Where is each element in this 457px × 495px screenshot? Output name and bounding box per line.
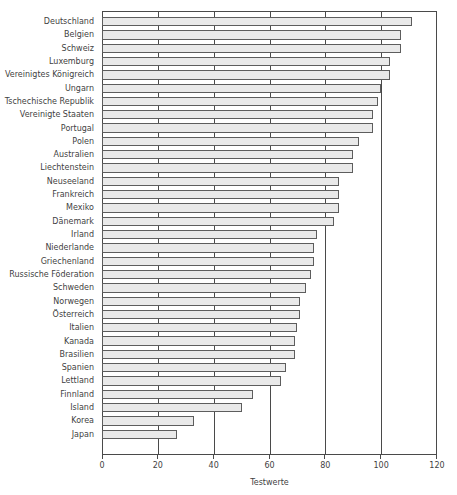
bar-row <box>102 321 437 334</box>
bar-row <box>102 201 437 214</box>
bar-row <box>102 414 437 427</box>
bar-row <box>102 215 437 228</box>
bar-row <box>102 348 437 361</box>
x-tick-mark-80 <box>324 455 325 459</box>
bar <box>102 84 381 93</box>
y-axis-category-labels: DeutschlandBelgienSchweizLuxemburgVerein… <box>0 11 98 455</box>
x-tick-label-80: 80 <box>320 461 330 470</box>
y-axis-label: Mexiko <box>66 201 94 214</box>
bar <box>102 283 306 292</box>
y-axis-label: Deutschland <box>44 15 94 28</box>
bar-row <box>102 108 437 121</box>
bar <box>102 17 412 26</box>
bar <box>102 390 253 399</box>
bar <box>102 243 314 252</box>
y-axis-label: Griechenland <box>41 255 94 268</box>
bar-row <box>102 28 437 41</box>
bar-chart: · · · · DeutschlandBelgienSchweizLuxembu… <box>0 0 457 495</box>
bar-row <box>102 148 437 161</box>
y-axis-label: Australien <box>54 148 94 161</box>
y-axis-label: Kanada <box>64 335 94 348</box>
y-axis-label: Schweden <box>53 281 94 294</box>
bar <box>102 110 373 119</box>
bar <box>102 297 300 306</box>
x-tick-mark-40 <box>213 455 214 459</box>
x-tick-label-120: 120 <box>429 461 444 470</box>
bar-row <box>102 335 437 348</box>
bar <box>102 310 300 319</box>
y-axis-label: Island <box>70 401 94 414</box>
bar-row <box>102 15 437 28</box>
bar-row <box>102 268 437 281</box>
bar <box>102 163 353 172</box>
y-axis-label: Finnland <box>60 388 94 401</box>
y-axis-label: Dänemark <box>52 215 94 228</box>
bar <box>102 150 353 159</box>
y-axis-label: Österreich <box>53 308 94 321</box>
clipped-title-artifact: · · · · <box>0 0 457 9</box>
bar <box>102 57 390 66</box>
bar-row <box>102 122 437 135</box>
clipped-title-text: · · · · <box>0 0 16 2</box>
y-axis-label: Frankreich <box>52 188 94 201</box>
bar <box>102 376 281 385</box>
bar-series <box>102 11 437 455</box>
bar <box>102 323 297 332</box>
y-axis-label: Russische Föderation <box>9 268 94 281</box>
bar-row <box>102 308 437 321</box>
bar-row <box>102 161 437 174</box>
y-axis-label: Irland <box>71 228 94 241</box>
x-tick-mark-0 <box>102 455 103 459</box>
x-tick-mark-120 <box>436 455 437 459</box>
y-axis-label: Vereinigte Staaten <box>20 108 94 121</box>
bar <box>102 350 295 359</box>
bar <box>102 230 317 239</box>
bar-row <box>102 175 437 188</box>
x-tick-mark-100 <box>380 455 381 459</box>
bar <box>102 177 339 186</box>
bar-row <box>102 361 437 374</box>
bar <box>102 203 339 212</box>
y-axis-label: Japan <box>72 428 94 441</box>
bar-row <box>102 68 437 81</box>
y-axis-label: Brasilien <box>59 348 94 361</box>
bar-row <box>102 255 437 268</box>
bar-row <box>102 388 437 401</box>
bar-row <box>102 188 437 201</box>
bar <box>102 217 334 226</box>
bar-row <box>102 55 437 68</box>
bar-row <box>102 374 437 387</box>
bar-row <box>102 428 437 441</box>
bar <box>102 30 401 39</box>
x-tick-label-100: 100 <box>374 461 389 470</box>
y-axis-label: Niederlande <box>45 241 94 254</box>
bar <box>102 403 242 412</box>
y-axis-label: Tschechische Republik <box>5 95 94 108</box>
bar <box>102 416 194 425</box>
y-axis-label: Spanien <box>62 361 94 374</box>
y-axis-label: Neuseeland <box>47 175 94 188</box>
bar <box>102 257 314 266</box>
x-tick-mark-60 <box>269 455 270 459</box>
bar-row <box>102 401 437 414</box>
x-tick-label-0: 0 <box>99 461 104 470</box>
x-tick-label-60: 60 <box>264 461 274 470</box>
bar-row <box>102 295 437 308</box>
y-axis-label: Ungarn <box>65 82 94 95</box>
bar-row <box>102 95 437 108</box>
bar-row <box>102 82 437 95</box>
y-axis-label: Portugal <box>61 122 94 135</box>
bar <box>102 97 378 106</box>
bar <box>102 123 373 132</box>
bar-row <box>102 135 437 148</box>
bar <box>102 363 286 372</box>
x-tick-label-40: 40 <box>209 461 219 470</box>
y-axis-label: Belgien <box>64 28 94 41</box>
bar <box>102 137 359 146</box>
x-tick-label-20: 20 <box>153 461 163 470</box>
y-axis-label: Lettland <box>61 374 94 387</box>
bar-row <box>102 42 437 55</box>
y-axis-label: Vereinigtes Königreich <box>5 68 94 81</box>
bar <box>102 270 311 279</box>
bar-row <box>102 241 437 254</box>
